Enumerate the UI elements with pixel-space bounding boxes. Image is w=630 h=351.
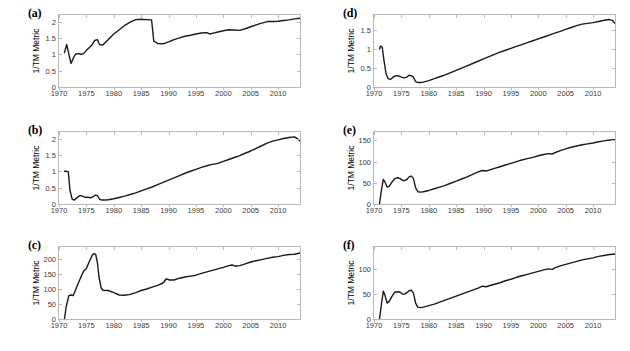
y-tick-mark <box>59 204 62 205</box>
x-tick-label: 2005 <box>242 89 259 98</box>
plot-area-e: 1970197519801985199019952000200520100501… <box>373 131 616 205</box>
y-tick-mark-right <box>612 140 615 141</box>
y-tick-mark-right <box>297 289 300 290</box>
x-tick-mark-top <box>566 132 567 135</box>
x-tick-mark-top <box>114 15 115 18</box>
y-tick-mark <box>374 162 377 163</box>
x-tick-label: 1985 <box>448 206 465 215</box>
y-tick-mark <box>59 304 62 305</box>
y-tick-mark <box>59 259 62 260</box>
y-tick-mark <box>374 269 377 270</box>
x-tick-mark-top <box>114 247 115 250</box>
x-tick-label: 1975 <box>78 321 95 330</box>
y-tick-label: 0.5 <box>361 64 371 73</box>
x-tick-mark-top <box>114 132 115 135</box>
y-tick-mark <box>59 87 62 88</box>
y-tick-mark-right <box>297 304 300 305</box>
x-tick-label: 1990 <box>160 321 177 330</box>
y-tick-label: 1.5 <box>46 150 56 159</box>
y-tick-mark <box>374 294 377 295</box>
x-tick-mark-top <box>593 132 594 135</box>
x-tick-label: 2005 <box>557 89 574 98</box>
y-tick-label: 0.5 <box>46 66 56 75</box>
y-tick-mark-right <box>297 38 300 39</box>
x-tick-mark-top <box>566 15 567 18</box>
y-tick-label: 0 <box>52 315 56 324</box>
y-tick-mark-right <box>612 319 615 320</box>
y-tick-label: 100 <box>358 265 371 274</box>
x-tick-mark-top <box>538 132 539 135</box>
y-tick-mark <box>59 155 62 156</box>
x-tick-mark-top <box>484 247 485 250</box>
y-axis-label-wrap-d: 1/TM Metric <box>337 14 351 88</box>
x-tick-mark-top <box>538 15 539 18</box>
x-tick-mark-top <box>196 247 197 250</box>
y-tick-label: 100 <box>358 157 371 166</box>
x-tick-mark-top <box>169 247 170 250</box>
y-axis-label-wrap-f: 1/TM Metric <box>337 246 351 320</box>
x-tick-label: 1995 <box>503 206 520 215</box>
x-tick-label: 2000 <box>215 321 232 330</box>
x-tick-label: 1975 <box>78 89 95 98</box>
y-axis-label-e: 1/TM Metric <box>346 131 356 205</box>
x-tick-label: 2000 <box>530 89 547 98</box>
y-tick-label: 2 <box>52 17 56 26</box>
panel-f: (f) 1/TM Metric 197019751980198519901995… <box>315 232 630 351</box>
x-tick-mark-top <box>456 15 457 18</box>
series-line <box>64 18 300 63</box>
y-tick-mark-right <box>297 274 300 275</box>
y-tick-mark <box>374 87 377 88</box>
x-tick-mark-top <box>169 132 170 135</box>
plot-area-b: 19701975198019851990199520002005201000.5… <box>58 131 301 205</box>
series-line-svg <box>374 15 615 87</box>
y-tick-label: 50 <box>363 290 371 299</box>
y-tick-mark-right <box>297 204 300 205</box>
x-tick-label: 1975 <box>393 206 410 215</box>
x-tick-label: 2005 <box>242 321 259 330</box>
y-tick-mark-right <box>297 188 300 189</box>
y-tick-label: 0.5 <box>46 183 56 192</box>
x-tick-label: 2000 <box>215 206 232 215</box>
y-tick-mark-right <box>297 54 300 55</box>
y-tick-mark <box>374 49 377 50</box>
x-tick-label: 1985 <box>133 206 150 215</box>
y-tick-label: 100 <box>43 285 56 294</box>
x-tick-mark-top <box>429 132 430 135</box>
y-tick-mark <box>374 183 377 184</box>
y-tick-mark <box>374 319 377 320</box>
x-tick-mark-top <box>223 15 224 18</box>
x-tick-label: 1990 <box>160 206 177 215</box>
series-line-svg <box>59 247 300 319</box>
x-tick-label: 1995 <box>188 206 205 215</box>
x-tick-mark-top <box>566 247 567 250</box>
x-tick-mark-top <box>141 132 142 135</box>
y-tick-mark <box>59 139 62 140</box>
x-tick-label: 1995 <box>188 89 205 98</box>
x-tick-label: 1985 <box>448 321 465 330</box>
y-tick-label: 0 <box>367 200 371 209</box>
x-tick-label: 2005 <box>557 321 574 330</box>
y-axis-label-wrap-e: 1/TM Metric <box>337 131 351 205</box>
y-tick-mark-right <box>612 183 615 184</box>
series-line-svg <box>374 132 615 204</box>
x-tick-label: 2000 <box>215 89 232 98</box>
x-tick-label: 1975 <box>78 206 95 215</box>
x-tick-label: 2010 <box>585 206 602 215</box>
y-tick-label: 0 <box>367 315 371 324</box>
y-tick-mark <box>59 188 62 189</box>
x-tick-mark-top <box>401 247 402 250</box>
y-tick-mark <box>59 289 62 290</box>
y-tick-mark <box>374 204 377 205</box>
x-tick-label: 1985 <box>133 89 150 98</box>
y-tick-mark <box>374 30 377 31</box>
y-tick-mark-right <box>612 49 615 50</box>
x-tick-mark-top <box>456 247 457 250</box>
x-tick-mark-top <box>511 132 512 135</box>
x-tick-mark-top <box>59 132 60 135</box>
x-tick-label: 2010 <box>585 89 602 98</box>
series-line-svg <box>59 15 300 87</box>
x-tick-mark-top <box>251 247 252 250</box>
x-tick-mark-top <box>223 132 224 135</box>
x-tick-label: 2005 <box>557 206 574 215</box>
plot-area-a: 19701975198019851990199520002005201000.5… <box>58 14 301 88</box>
